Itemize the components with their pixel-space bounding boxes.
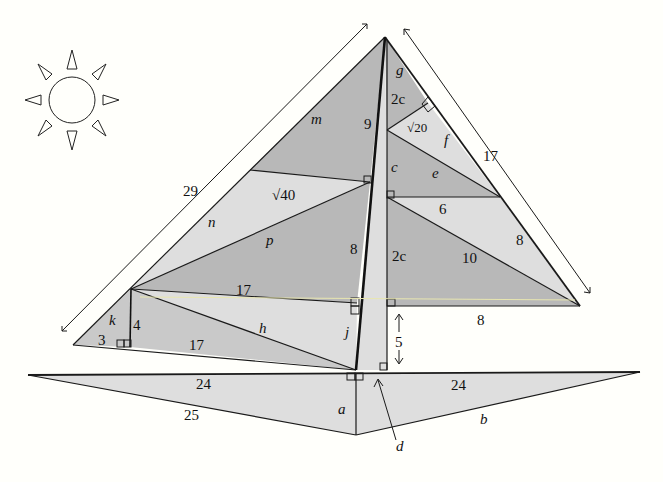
label-8-left: 8 [350, 241, 358, 257]
label-e: e [432, 165, 439, 181]
label-b: b [480, 411, 488, 427]
label-5: 5 [395, 334, 403, 350]
label-sqrt40: √40 [272, 187, 295, 203]
label-sqrt20: √20 [407, 120, 427, 135]
label-6: 6 [439, 201, 447, 217]
label-4: 4 [133, 317, 141, 333]
label-17-right: 17 [483, 148, 499, 164]
label-h: h [259, 320, 267, 336]
label-p: p [265, 232, 274, 248]
label-3: 3 [98, 332, 106, 348]
label-a: a [338, 401, 346, 417]
label-k: k [109, 312, 116, 328]
sailboat-diagram: 29 17 5 m √40 n p 9 8 17 k 4 3 17 h j g … [0, 0, 663, 482]
left-sail [73, 37, 385, 370]
sun-icon [25, 50, 119, 150]
label-n: n [208, 214, 216, 230]
label-17-top: 17 [236, 282, 252, 298]
label-17-bottom: 17 [189, 337, 205, 353]
label-25: 25 [184, 407, 199, 423]
label-c: c [391, 159, 398, 175]
label-2c-bottom: 2c [392, 248, 407, 264]
label-29: 29 [183, 183, 198, 199]
label-m: m [311, 111, 322, 127]
label-24-right: 24 [451, 377, 467, 393]
label-8-bottom: 8 [477, 312, 485, 328]
label-9: 9 [364, 116, 372, 132]
label-g: g [396, 62, 404, 78]
label-24-left: 24 [196, 376, 212, 392]
label-2c-top: 2c [391, 91, 406, 107]
label-10: 10 [462, 250, 477, 266]
label-8-side: 8 [516, 232, 524, 248]
hull [28, 372, 640, 435]
label-d: d [396, 438, 404, 454]
